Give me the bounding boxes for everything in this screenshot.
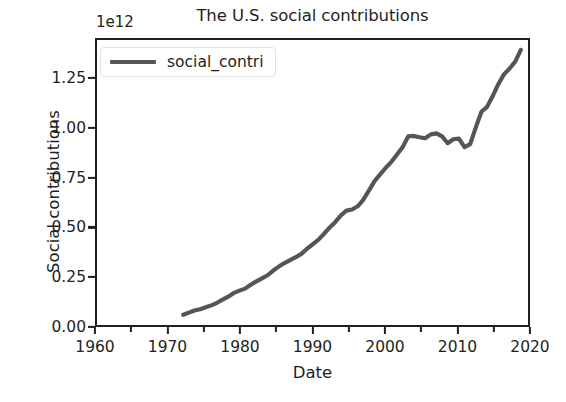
data-line-svg [97,40,528,325]
x-tick-label: 1970 [148,338,187,356]
x-tick-mark [456,327,458,334]
x-tick-mark-minor [348,327,350,332]
x-tick-label: 2000 [365,338,404,356]
plot-area [95,38,530,327]
y-tick-mark [88,127,95,129]
x-tick-label: 1980 [220,338,259,356]
x-tick-mark [94,327,96,334]
y-axis-title: Social contributions [44,47,63,337]
x-tick-label: 2020 [510,338,549,356]
y-tick-mark [88,77,95,79]
y-tick-mark [88,176,95,178]
x-tick-mark [311,327,313,334]
x-tick-label: 2010 [438,338,477,356]
x-tick-mark-minor [493,327,495,332]
x-tick-mark [166,327,168,334]
series-line-social-contri [183,50,521,315]
x-tick-mark-minor [275,327,277,332]
x-tick-mark [239,327,241,334]
x-tick-mark [529,327,531,334]
x-tick-mark-minor [130,327,132,332]
legend-label-social-contri: social_contri [167,53,264,71]
y-tick-mark [88,226,95,228]
x-axis-title: Date [95,363,530,382]
x-tick-label: 1990 [293,338,332,356]
x-tick-mark-minor [203,327,205,332]
legend: social_contri [100,47,276,77]
chart-figure: 1e12 The U.S. social contributions 0.000… [0,0,566,402]
chart-title: The U.S. social contributions [95,6,530,25]
legend-swatch-social-contri [110,60,156,65]
x-tick-label: 1960 [75,338,114,356]
x-tick-mark-minor [420,327,422,332]
x-tick-mark [384,327,386,334]
y-tick-mark [88,276,95,278]
